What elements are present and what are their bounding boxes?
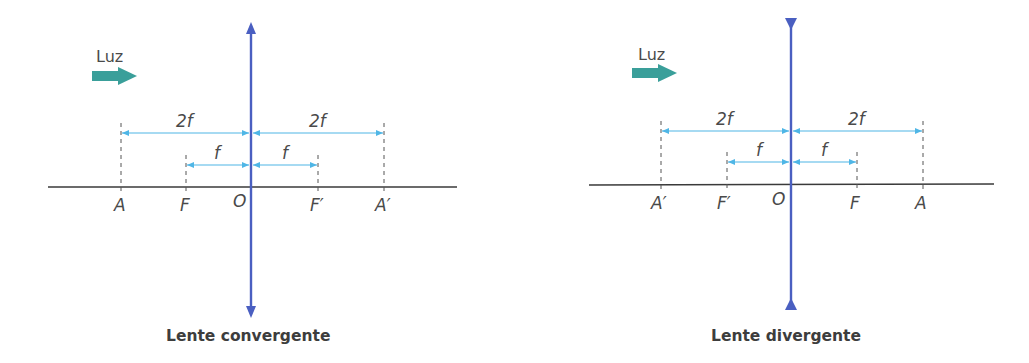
dim-label-right-2f: 2f [309,111,329,131]
light-direction-arrow-icon [632,64,677,82]
dim-label-left-f: f [214,143,223,163]
dim-label-right-f: f [821,140,830,160]
point-label-A-prime: A′ [650,193,667,213]
point-label-O: O [233,191,246,211]
point-label-F: F [180,195,190,215]
point-label-F-prime: F′ [310,195,324,215]
point-label-F: F [850,193,860,213]
divergent-lens [785,18,797,310]
dimension-2f [122,133,383,165]
dim-label-right-f: f [282,143,291,163]
diagram-title: Lente convergente [166,327,330,345]
point-label-A-prime: A′ [374,195,391,215]
convergent-lens-diagram: Luz 2f 2f f f [48,22,457,345]
point-label-A: A [113,195,126,215]
convergent-lens [246,22,256,318]
dim-label-left-f: f [756,140,765,160]
divergent-lens-diagram: Luz 2f 2f f f A′ F′ O F [589,18,994,345]
diagram-title: Lente divergente [711,327,861,345]
dim-label-left-2f: 2f [176,111,196,131]
point-label-F-prime: F′ [717,193,731,213]
light-label: Luz [638,45,665,64]
dim-label-left-2f: 2f [716,109,736,129]
point-label-A: A [914,193,927,213]
point-label-O: O [772,189,785,209]
light-label: Luz [96,47,123,66]
dim-label-right-2f: 2f [848,109,868,129]
light-direction-arrow-icon [92,67,137,85]
